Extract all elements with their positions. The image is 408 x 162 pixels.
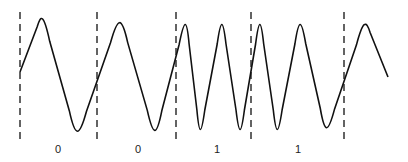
modulated-waveform [20, 19, 388, 132]
bit-label-2: 0 [128, 143, 148, 155]
bit-label-1: 0 [48, 143, 68, 155]
fsk-waveform-diagram [0, 0, 408, 162]
bit-label-4: 1 [288, 143, 308, 155]
bit-label-3: 1 [207, 143, 227, 155]
